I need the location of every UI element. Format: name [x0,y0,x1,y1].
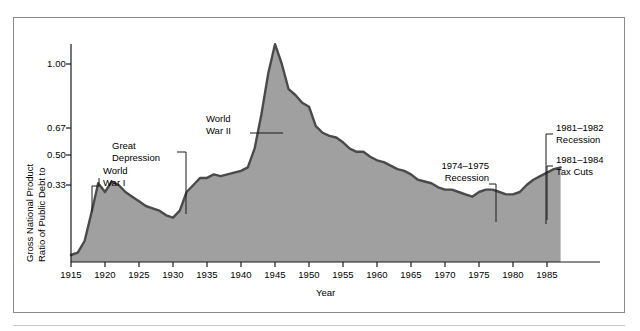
y-axis-ticks [66,64,71,185]
annotation-world-war-i: World War I [103,165,128,188]
chart-plot-area [0,0,640,331]
x-tick-label: 1980 [499,269,527,280]
annotation-great-depression: Great Depression [112,140,160,163]
annotation-recession-1974-1975-line-1: 1974–1975 [426,160,489,172]
annotation-world-war-ii-line-2: War II [206,125,231,137]
annotation-great-depression-line-1: Great [112,140,160,152]
x-tick-label: 1930 [159,269,187,280]
x-tick-label: 1945 [261,269,289,280]
x-tick-label: 1970 [431,269,459,280]
annotation-tax-cuts-1981-1984-line-2: Tax Cuts [556,166,604,178]
y-tick-label: 1.00 [42,58,66,69]
x-axis-title: Year [316,287,335,298]
x-tick-label: 1925 [125,269,153,280]
x-tick-label: 1955 [329,269,357,280]
annotation-recession-1981-1982-line-1: 1981–1982 [556,122,604,134]
annotation-recession-1974-1975: 1974–1975 Recession [426,160,489,183]
x-tick-label: 1920 [91,269,119,280]
y-tick-label: 0.50 [42,149,66,160]
x-tick-label: 1965 [397,269,425,280]
annotation-world-war-ii: World War II [206,113,231,136]
x-tick-label: 1975 [465,269,493,280]
x-tick-label: 1915 [57,269,85,280]
annotation-tax-cuts-1981-1984: 1981–1984 Tax Cuts [556,154,604,177]
annotation-great-depression-line-2: Depression [112,152,160,164]
annotation-world-war-i-line-1: World [103,165,128,177]
x-tick-label: 1940 [227,269,255,280]
annotation-recession-1974-1975-line-2: Recession [426,172,489,184]
y-tick-label: 0.67 [42,122,66,133]
annotation-recession-1981-1982-line-2: Recession [556,134,604,146]
x-tick-label: 1985 [533,269,561,280]
annotation-tax-cuts-1981-1984-line-1: 1981–1984 [556,154,604,166]
y-tick-label: 0.33 [42,179,66,190]
annotation-recession-1981-1982: 1981–1982 Recession [556,122,604,145]
x-tick-label: 1935 [193,269,221,280]
x-axis-ticks [71,262,547,267]
annotation-world-war-i-line-2: War I [103,177,128,189]
x-tick-label: 1960 [363,269,391,280]
chart-figure: Gross National Product Ratio of Public D… [0,0,640,331]
y-axis-title-line-1: Gross National Product [24,164,36,262]
x-tick-label: 1950 [295,269,323,280]
annotation-world-war-ii-line-1: World [206,113,231,125]
